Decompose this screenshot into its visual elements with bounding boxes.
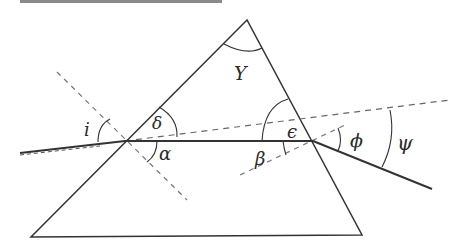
left-face-normal	[57, 72, 187, 200]
epsilon-angle-arc	[262, 99, 288, 141]
epsilon-angle-label: ϵ	[287, 121, 297, 142]
beta-angle-label: β	[254, 148, 265, 169]
delta-angle-label: δ	[152, 113, 162, 133]
beta-angle-arc	[283, 141, 286, 155]
apex-angle-label: Υ	[234, 62, 249, 84]
phi-angle-arc	[338, 128, 341, 151]
apex-angle-arc	[224, 44, 262, 51]
alpha-angle-label: α	[159, 143, 171, 164]
incident-ray-dash-overlay	[20, 146, 100, 155]
phi-angle-label: ϕ	[350, 129, 363, 151]
incidence-angle-label: i	[84, 119, 90, 140]
psi-angle-label: ψ	[397, 131, 413, 155]
incident-ray	[20, 141, 125, 153]
prism-diagram: Υ i δ α β ϵ ϕ ψ	[0, 0, 458, 245]
psi-angle-arc	[382, 110, 392, 167]
diagram-canvas: Υ i δ α β ϵ ϕ ψ	[0, 0, 458, 245]
exit-ray	[313, 141, 432, 189]
prism-triangle	[31, 20, 362, 237]
alpha-angle-arc	[147, 141, 157, 162]
